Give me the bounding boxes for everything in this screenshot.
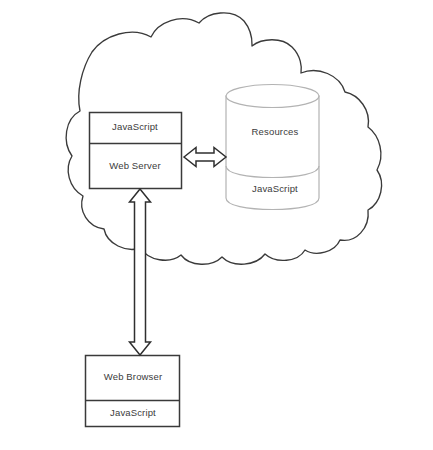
cylinder-body (226, 96, 319, 210)
web-server-box (90, 113, 182, 189)
architecture-diagram (0, 0, 433, 450)
diagram-canvas: JavaScript Web Server Resources JavaScri… (0, 0, 433, 450)
web-browser-outline (86, 356, 180, 427)
cylinder-top-ellipse (226, 85, 319, 108)
web-server-outline (90, 113, 182, 189)
database-cylinder (226, 85, 319, 210)
web-browser-box (86, 356, 180, 427)
